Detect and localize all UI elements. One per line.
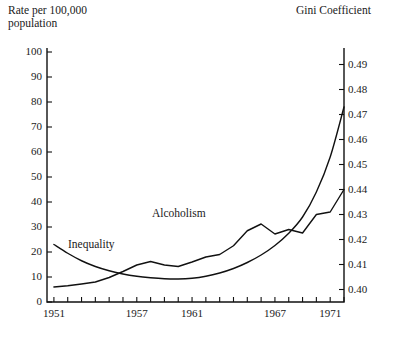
data-curves xyxy=(54,107,344,287)
series-label-inequality: Inequality xyxy=(68,238,115,250)
axis-spines xyxy=(47,48,344,302)
series-curve-alcoholism xyxy=(54,107,344,279)
series-label-alcoholism: Alcoholism xyxy=(152,207,206,219)
axes xyxy=(47,48,344,302)
chart-figure: Rate per 100,000 population Gini Coeffic… xyxy=(0,0,402,337)
plot-area xyxy=(0,0,402,337)
